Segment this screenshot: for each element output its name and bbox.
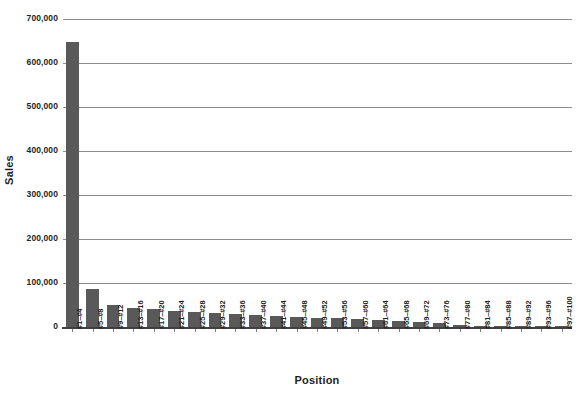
x-axis-tick-label-text: #49–#52	[320, 301, 329, 330]
x-axis-tick-mark	[521, 329, 522, 332]
x-axis-tick-label-text: #37–#40	[259, 301, 268, 330]
y-axis-tick-label: 400,000	[14, 146, 58, 155]
x-axis-tick-label-text: #17–#20	[157, 301, 166, 330]
x-axis-tick-label-text: #69–#72	[422, 301, 431, 330]
x-axis-tick-label-text: #13–#16	[136, 301, 145, 330]
x-axis-title: Position	[62, 374, 572, 386]
x-axis-tick-mark	[276, 329, 277, 332]
x-axis-tick-mark	[337, 329, 338, 332]
x-axis-tick-label-text: #53–#56	[340, 301, 349, 330]
x-axis-tick-mark	[460, 329, 461, 332]
x-axis-tick-mark	[399, 329, 400, 332]
x-axis-tick-mark	[195, 329, 196, 332]
sales-by-position-bar-chart: Sales 0100,000200,000300,000400,000500,0…	[0, 0, 579, 394]
y-axis-tick-label: 100,000	[14, 278, 58, 287]
x-axis-tick-label-text: #93–#96	[544, 301, 553, 330]
y-axis-tick-label: 600,000	[14, 58, 58, 67]
x-axis-tick-mark	[439, 329, 440, 332]
x-axis-tick-mark	[562, 329, 563, 332]
x-axis-tick-mark	[297, 329, 298, 332]
x-axis-tick-mark	[358, 329, 359, 332]
x-axis-tick-mark	[501, 329, 502, 332]
x-axis-tick-mark	[541, 329, 542, 332]
bars-layer	[62, 19, 572, 327]
x-axis-tick-mark	[133, 329, 134, 332]
y-axis-tick-label: 500,000	[14, 102, 58, 111]
y-axis-tick-label: 200,000	[14, 234, 58, 243]
x-axis-tick-label-text: #21–#24	[177, 301, 186, 330]
x-axis-tick-label-text: #1–#4	[75, 309, 84, 329]
x-axis-tick-label-text: #65–#68	[402, 301, 411, 330]
x-axis-tick-label-text: #77–#80	[463, 301, 472, 330]
x-axis-tick-mark	[378, 329, 379, 332]
x-axis-tick-label-text: #29–#32	[218, 301, 227, 330]
x-axis-tick-mark	[113, 329, 114, 332]
x-axis-tick-label-text: #73–#76	[442, 301, 451, 330]
x-axis-tick-mark	[72, 329, 73, 332]
x-axis-tick-mark	[215, 329, 216, 332]
x-axis-tick-mark	[174, 329, 175, 332]
x-axis-tick-label-text: #5–#8	[96, 309, 105, 329]
x-axis-tick-label-text: #61–#64	[381, 301, 390, 330]
x-axis-tick-mark	[93, 329, 94, 332]
x-axis-tick-label-text: #89–#92	[524, 301, 533, 330]
x-axis-tick-label-text: #57–#60	[361, 301, 370, 330]
x-axis-tick-label-text: #33–#36	[238, 301, 247, 330]
x-axis-tick-label-text: #85–#88	[504, 301, 513, 330]
x-axis-tick-label: #1–#4	[75, 329, 95, 375]
x-axis-tick-mark	[235, 329, 236, 332]
x-axis-tick-mark	[154, 329, 155, 332]
y-axis-tick-label: 300,000	[14, 190, 58, 199]
x-axis-tick-label: #97–#100	[565, 329, 579, 375]
x-axis-tick-label: #5–#8	[96, 329, 116, 375]
x-axis-tick-label-text: #41–#44	[279, 301, 288, 330]
x-axis-tick-mark	[480, 329, 481, 332]
x-axis-tick-label-text: #9–#12	[116, 305, 125, 329]
y-axis-tick-labels: 0100,000200,000300,000400,000500,000600,…	[14, 0, 58, 340]
bar	[66, 42, 79, 327]
y-axis-tick-label: 700,000	[14, 14, 58, 23]
x-axis-tick-mark	[419, 329, 420, 332]
x-axis-tick-label-text: #81–#84	[483, 301, 492, 330]
x-axis-tick-mark	[256, 329, 257, 332]
x-axis-tick-labels: #1–#4#5–#8#9–#12#13–#16#17–#20#21–#24#25…	[62, 329, 572, 375]
x-axis-tick-mark	[317, 329, 318, 332]
x-axis-tick-label-text: #97–#100	[565, 296, 574, 329]
x-axis-tick-label-text: #45–#48	[300, 301, 309, 330]
x-axis-tick-label-text: #25–#28	[198, 301, 207, 330]
y-axis-tick-label: 0	[14, 322, 58, 331]
